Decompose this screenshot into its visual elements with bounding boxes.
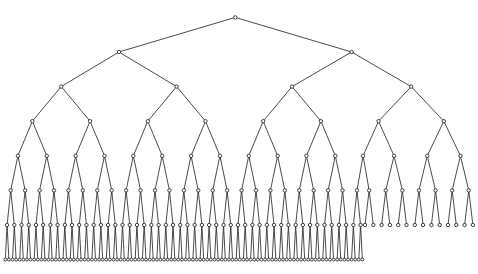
tree-edge [323, 225, 325, 260]
tree-edge [220, 156, 227, 191]
tree-edge [238, 225, 240, 260]
tree-edge [260, 225, 262, 260]
tree-node [271, 258, 274, 261]
tree-edge [151, 190, 155, 225]
tree-edge [306, 156, 313, 191]
tree-edge [386, 156, 394, 191]
tree-node [103, 154, 106, 157]
tree-node [101, 258, 104, 261]
tree-node [40, 258, 43, 261]
tree-edge [193, 225, 195, 260]
tree-node [235, 258, 238, 261]
tree-node [405, 223, 408, 226]
tree-node [367, 189, 370, 192]
tree-edge [7, 225, 9, 260]
tree-node [137, 258, 140, 261]
tree-node [401, 189, 404, 192]
tree-node [251, 223, 254, 226]
tree-node [262, 120, 265, 123]
tree-node [128, 223, 131, 226]
tree-node [145, 258, 148, 261]
tree-node [164, 223, 167, 226]
tree-edge [316, 225, 318, 260]
binary-tree-svg [0, 0, 478, 274]
tree-node [22, 258, 25, 261]
tree-node [150, 223, 153, 226]
tree-edge [213, 190, 217, 225]
tree-edge [344, 225, 346, 260]
tree-edge [274, 225, 276, 260]
tree-node [92, 223, 95, 226]
tree-node [60, 85, 63, 88]
tree-edge [236, 225, 238, 260]
tree-node [272, 223, 275, 226]
tree-node [218, 154, 221, 157]
tree-edge [325, 225, 327, 260]
tree-node [27, 223, 30, 226]
tree-node [307, 258, 310, 261]
tree-edge [224, 225, 226, 260]
tree-edge [452, 190, 456, 225]
tree-node [62, 258, 65, 261]
tree-edge [227, 190, 231, 225]
tree-node [325, 258, 328, 261]
tree-edge [108, 225, 110, 260]
tree-node [124, 189, 127, 192]
tree-node [23, 189, 26, 192]
tree-edge [339, 225, 341, 260]
tree-edge [97, 190, 101, 225]
tree-edge [123, 225, 125, 260]
tree-edge [144, 225, 146, 260]
tree-edge [61, 87, 90, 122]
tree-edge [460, 156, 468, 191]
tree-edge [263, 121, 277, 156]
tree-node [108, 258, 111, 261]
tree-node [450, 189, 453, 192]
tree-edge [415, 190, 419, 225]
tree-edge [207, 225, 209, 260]
tree-node [359, 223, 362, 226]
tree-node [52, 189, 55, 192]
tree-node [191, 258, 194, 261]
tree-node [44, 258, 47, 261]
tree-edge [20, 225, 22, 260]
tree-edge [76, 156, 83, 191]
tree-edge [13, 225, 15, 260]
tree-edge [325, 190, 329, 225]
tree-edge [121, 225, 123, 260]
tree-edge [119, 17, 235, 52]
tree-edge [169, 190, 173, 225]
tree-edge [321, 121, 335, 156]
tree-node [298, 189, 301, 192]
tree-node [146, 120, 149, 123]
tree-edge [155, 156, 162, 191]
tree-node [290, 85, 293, 88]
tree-node [308, 223, 311, 226]
tree-node [352, 223, 355, 226]
tree-edge [58, 225, 60, 260]
tree-node [193, 223, 196, 226]
tree-edge [79, 190, 83, 225]
tree-node [141, 258, 144, 261]
tree-node [189, 154, 192, 157]
tree-edge [359, 225, 361, 260]
tree-edge [18, 121, 32, 156]
tree-node [166, 258, 169, 261]
tree-node [206, 258, 209, 261]
tree-node [159, 258, 162, 261]
tree-edge [148, 87, 177, 122]
tree-edge [191, 121, 205, 156]
tree-edge [61, 52, 119, 87]
tree-edge [296, 190, 300, 225]
tree-node [130, 258, 133, 261]
tree-edge [79, 225, 81, 260]
tree-node [51, 258, 54, 261]
tree-edge [86, 225, 88, 260]
tree-node [85, 223, 88, 226]
tree-edge [43, 225, 45, 260]
tree-edge [150, 225, 152, 260]
tree-node [314, 258, 317, 261]
tree-edge [171, 225, 173, 260]
tree-node [7, 258, 10, 261]
tree-edge [27, 225, 29, 260]
